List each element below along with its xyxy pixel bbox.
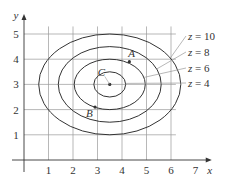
y-axis-label: y [13,9,19,21]
x-tick-label: 4 [119,164,125,176]
point-a [128,60,131,63]
contour-plot: 123456712345xy z = 4z = 6z = 8z = 10 ABC [0,0,227,185]
level-labels: z = 4z = 6z = 8z = 10 [187,30,215,89]
level-label: z = 6 [187,62,210,74]
level-label-value: = 4 [192,77,210,89]
y-tick-label: 2 [13,104,19,116]
axes [12,14,212,172]
point-label-a: A [127,47,135,59]
level-label-value: = 10 [192,30,215,42]
point-label-b: B [86,107,93,119]
y-axis-arrow-icon [22,14,27,20]
level-leader-line [157,52,186,69]
level-label: z = 4 [187,77,210,89]
point-c-leader-line [105,76,110,84]
point-b [93,105,96,108]
x-tick-label: 3 [95,164,101,176]
y-tick-label: 5 [13,28,19,40]
grid [24,26,176,160]
x-tick-label: 5 [144,164,150,176]
x-axis-arrow-icon [206,158,212,163]
level-label-value: = 6 [192,62,210,74]
y-tick-label: 1 [13,129,19,141]
level-label: z = 8 [187,46,210,58]
x-tick-label: 7 [193,164,199,176]
y-tick-label: 3 [13,78,19,90]
x-axis-label: x [206,164,212,176]
x-tick-label: 2 [70,164,76,176]
level-leader-lines [126,36,186,83]
contour-plot-svg: 123456712345xy z = 4z = 6z = 8z = 10 ABC [0,0,227,185]
level-leader-line [170,36,186,58]
level-label: z = 10 [187,30,215,42]
x-tick-label: 6 [168,164,174,176]
y-tick-label: 4 [13,53,19,65]
level-label-value: = 8 [192,46,210,58]
x-tick-label: 1 [46,164,52,176]
